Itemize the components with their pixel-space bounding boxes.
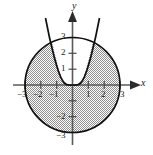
x-tick-label-2: 2 [101, 90, 106, 99]
plot-canvas [0, 0, 153, 155]
y-tick-label-3: 3 [61, 32, 66, 41]
y-tick-label-neg2: −2 [56, 112, 66, 121]
y-axis-arrowhead [68, 11, 77, 22]
x-tick-label-neg3: −3 [17, 90, 27, 99]
y-axis-name: y [72, 1, 76, 11]
figure-container: −3 −2 −1 1 2 3 3 2 1 −2 −3 x y [0, 0, 153, 155]
y-tick-label-2: 2 [61, 48, 66, 57]
x-tick-label-neg2: −2 [33, 90, 43, 99]
y-tick-label-1: 1 [61, 64, 66, 73]
x-axis-name: x [141, 78, 145, 88]
x-axis-arrowhead [130, 81, 141, 90]
x-tick-label-3: 3 [120, 90, 125, 99]
x-tick-label-1: 1 [86, 90, 91, 99]
x-tick-label-neg1: −1 [49, 90, 59, 99]
y-tick-label-neg3: −3 [56, 131, 66, 140]
